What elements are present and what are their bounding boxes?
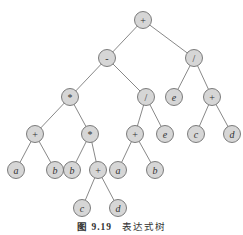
node-label: * <box>88 129 93 140</box>
node-label: + <box>209 92 215 103</box>
node-label: c <box>80 203 85 214</box>
node-label: / <box>145 92 148 103</box>
node-label: b <box>53 165 58 176</box>
node-label: + <box>132 129 138 140</box>
node-label: e <box>172 92 177 103</box>
caption-title: 表达式树 <box>122 222 166 232</box>
operator-node: * <box>62 89 79 106</box>
node-label: * <box>68 92 73 103</box>
operand-node: d <box>224 126 241 143</box>
node-label: - <box>105 53 108 64</box>
caption-label: 图 9.19 <box>77 222 112 232</box>
operator-node: / <box>138 89 155 106</box>
tree-nodes: +-/*/e++*+ecdabb+abcd <box>8 12 241 217</box>
operator-node: - <box>99 50 116 67</box>
node-label: a <box>116 165 121 176</box>
operand-node: b <box>64 162 81 179</box>
operand-node: a <box>8 162 25 179</box>
operator-node: + <box>90 162 107 179</box>
operator-node: + <box>127 126 144 143</box>
operand-node: b <box>147 162 164 179</box>
node-label: + <box>95 165 101 176</box>
operand-node: a <box>110 162 127 179</box>
node-label: / <box>193 53 196 64</box>
operator-node: / <box>186 50 203 67</box>
node-label: a <box>14 165 19 176</box>
node-label: b <box>70 165 75 176</box>
operator-node: + <box>135 12 152 29</box>
operator-node: * <box>82 126 99 143</box>
operand-node: c <box>74 200 91 217</box>
expression-tree: +-/*/e++*+ecdabb+abcd <box>0 0 243 235</box>
node-label: b <box>153 165 158 176</box>
operand-node: e <box>157 126 174 143</box>
operand-node: c <box>188 126 205 143</box>
operator-node: + <box>27 126 44 143</box>
operand-node: b <box>47 162 64 179</box>
operand-node: e <box>166 89 183 106</box>
tree-edge <box>143 20 194 58</box>
operand-node: d <box>110 200 127 217</box>
operator-node: + <box>204 89 221 106</box>
tree-edges <box>16 20 232 208</box>
node-label: + <box>140 15 146 26</box>
figure-caption: 图 9.19表达式树 <box>0 219 243 233</box>
node-label: c <box>194 129 199 140</box>
node-label: + <box>32 129 38 140</box>
node-label: e <box>163 129 168 140</box>
